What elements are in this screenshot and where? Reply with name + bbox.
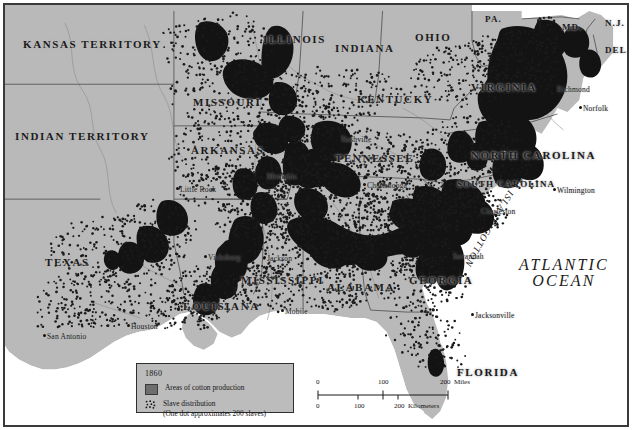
city-marker-dot [449, 254, 452, 257]
city-marker-dot [127, 324, 130, 327]
legend-row-slaves: Slave distribution (One dot approximates… [145, 399, 287, 419]
legend-cotton-label: Areas of cotton production [165, 383, 244, 393]
miles-tick-200: 200 [440, 378, 451, 386]
legend-year: 1860 [145, 369, 287, 378]
map-legend: 1860 Areas of cotton production [136, 363, 294, 413]
city-marker-dot [477, 209, 480, 212]
city-marker-dot [579, 106, 582, 109]
city-marker-dot [281, 309, 284, 312]
city-marker-dot [553, 87, 556, 90]
map-canvas [5, 5, 627, 425]
slave-label-line2: (One dot approximates 200 slaves) [163, 409, 266, 419]
city-marker-dot [263, 256, 266, 259]
miles-unit: Miles [454, 378, 470, 386]
scale-bar-graphic [316, 389, 491, 401]
city-marker-dot [337, 137, 340, 140]
km-tick-0: 0 [316, 402, 320, 410]
city-marker-dot [43, 334, 46, 337]
city-marker-dot [176, 187, 179, 190]
cotton-production-swatch [145, 384, 158, 395]
city-marker-dot [553, 188, 556, 191]
city-marker-dot [204, 255, 207, 258]
legend-row-cotton: Areas of cotton production [145, 383, 287, 395]
slave-label-line1: Slave distribution [163, 399, 266, 409]
historical-map-screenshot: KANSAS TERRITORYINDIAN TERRITORYMISSOURI… [0, 0, 632, 430]
km-unit: Kilometers [408, 402, 439, 410]
miles-tick-0: 0 [316, 378, 320, 386]
city-marker-dot [363, 183, 366, 186]
slave-distribution-dots-swatch [145, 400, 156, 409]
km-tick-200: 200 [394, 402, 405, 410]
legend-slave-label: Slave distribution (One dot approximates… [163, 399, 266, 419]
map-frame: KANSAS TERRITORYINDIAN TERRITORYMISSOURI… [3, 3, 629, 427]
scale-bars: 0 100 200 Miles 0 100 200 Kilometers [316, 378, 491, 412]
city-marker-dot [263, 174, 266, 177]
km-tick-100: 100 [354, 402, 365, 410]
miles-tick-100: 100 [378, 378, 389, 386]
city-marker-dot [471, 313, 474, 316]
